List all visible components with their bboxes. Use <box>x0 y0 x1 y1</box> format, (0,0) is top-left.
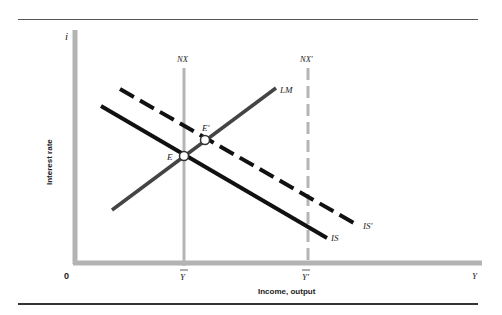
ybar-prime-label: Y′ <box>302 272 310 282</box>
ybar-label: Y <box>180 272 186 282</box>
is-prime-curve <box>120 89 359 226</box>
nx-label: NX <box>176 54 189 64</box>
e-prime-label: E′ <box>201 123 210 133</box>
y-axis-symbol: i <box>65 30 68 42</box>
x-axis-symbol: Y <box>472 271 478 281</box>
lm-label: LM <box>279 85 293 95</box>
x-tick-ybar: Y <box>180 270 188 282</box>
axes <box>73 30 482 264</box>
x-axis-title: Income, output <box>258 287 316 296</box>
y-axis-title: Interest rate <box>45 139 54 185</box>
nx-prime-label: NX′ <box>299 54 313 64</box>
equilibrium-e-prime-marker <box>201 136 210 145</box>
is-lm-diagram: i Interest rate NX NX′ LM IS IS′ E E′ 0 … <box>0 0 502 315</box>
is-curve <box>101 106 327 238</box>
bottom-rule <box>18 303 478 305</box>
equilibrium-e-marker <box>180 152 189 161</box>
x-tick-ybar-prime: Y′ <box>302 270 310 282</box>
e-label: E <box>166 152 173 162</box>
is-prime-label: IS′ <box>362 221 373 231</box>
origin-label: 0 <box>64 271 69 281</box>
is-label: IS <box>330 233 339 243</box>
